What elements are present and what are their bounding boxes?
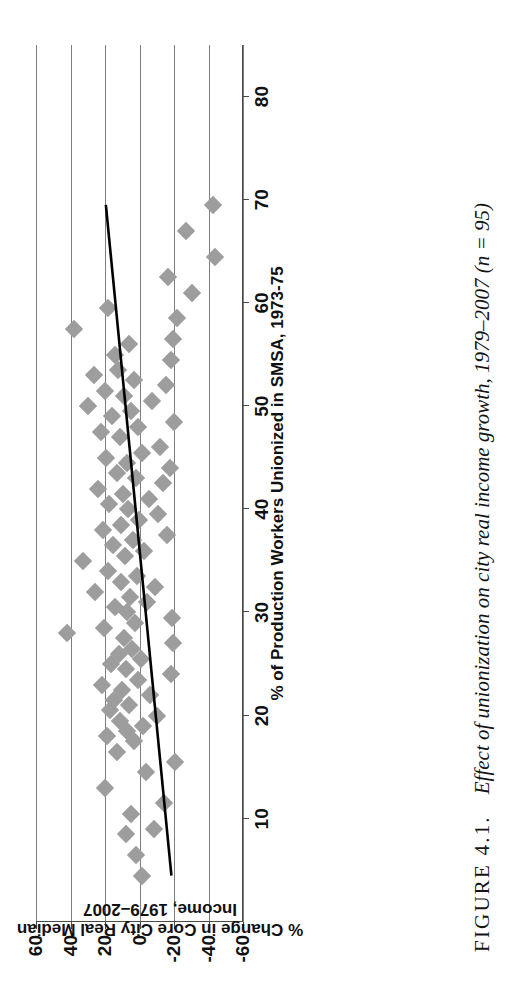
data-point bbox=[114, 485, 132, 503]
data-point bbox=[97, 449, 115, 467]
data-point bbox=[96, 779, 114, 797]
data-point bbox=[183, 283, 201, 301]
data-point bbox=[92, 676, 110, 694]
data-point bbox=[167, 309, 185, 327]
data-point bbox=[85, 366, 103, 384]
data-point bbox=[133, 443, 151, 461]
data-point bbox=[120, 335, 138, 353]
y-gridline bbox=[209, 45, 210, 922]
data-point bbox=[166, 753, 184, 771]
data-point bbox=[127, 846, 145, 864]
data-point bbox=[129, 670, 147, 688]
data-point bbox=[134, 717, 152, 735]
data-point bbox=[149, 505, 167, 523]
data-point bbox=[154, 794, 172, 812]
x-axis-title: % of Production Workers Unionized in SMS… bbox=[268, 45, 288, 922]
x-axis-tick bbox=[243, 302, 249, 303]
data-point bbox=[164, 330, 182, 348]
x-axis-tick bbox=[243, 818, 249, 819]
y-gridline bbox=[36, 45, 37, 922]
data-point bbox=[100, 495, 118, 513]
y-gridline bbox=[174, 45, 175, 922]
data-point bbox=[99, 299, 117, 317]
data-point bbox=[65, 320, 83, 338]
data-point bbox=[151, 438, 169, 456]
data-point bbox=[109, 361, 127, 379]
data-point bbox=[91, 423, 109, 441]
data-point bbox=[108, 743, 126, 761]
y-gridline bbox=[243, 45, 244, 922]
data-point bbox=[177, 222, 195, 240]
data-point bbox=[110, 428, 128, 446]
y-gridline bbox=[71, 45, 72, 922]
x-axis-tick bbox=[243, 96, 249, 97]
y-axis-tick-label: -40 bbox=[198, 935, 220, 962]
data-point bbox=[142, 392, 160, 410]
data-point bbox=[146, 577, 164, 595]
y-axis-tick-label: -60 bbox=[232, 935, 254, 962]
data-point bbox=[116, 825, 134, 843]
data-point bbox=[163, 608, 181, 626]
x-axis-tick bbox=[243, 199, 249, 200]
data-point bbox=[157, 376, 175, 394]
y-axis-tick-label: -20 bbox=[163, 935, 185, 962]
data-point bbox=[127, 469, 145, 487]
data-point bbox=[129, 418, 147, 436]
data-point bbox=[58, 624, 76, 642]
data-point bbox=[98, 727, 116, 745]
chart-figure: -60-40-2002040601020304050607080 % of Pr… bbox=[0, 0, 460, 998]
x-axis-line bbox=[242, 45, 243, 922]
x-axis-tick bbox=[243, 405, 249, 406]
data-point bbox=[125, 371, 143, 389]
data-point bbox=[121, 588, 139, 606]
plot-frame: -60-40-2002040601020304050607080 bbox=[36, 45, 243, 922]
data-point bbox=[95, 619, 113, 637]
data-point bbox=[96, 381, 114, 399]
data-point bbox=[162, 351, 180, 369]
data-point bbox=[141, 686, 159, 704]
data-point bbox=[128, 567, 146, 585]
y-axis-title: % Change in Core City Real Median Income… bbox=[5, 899, 315, 939]
data-point bbox=[165, 412, 183, 430]
x-axis-tick bbox=[243, 715, 249, 716]
chart-canvas: -60-40-2002040601020304050607080 % of Pr… bbox=[0, 0, 460, 998]
data-point bbox=[122, 804, 140, 822]
data-point bbox=[133, 866, 151, 884]
data-point bbox=[164, 634, 182, 652]
x-axis-tick bbox=[243, 508, 249, 509]
data-point bbox=[106, 345, 124, 363]
data-point bbox=[161, 665, 179, 683]
x-axis-tick bbox=[243, 611, 249, 612]
data-point bbox=[73, 552, 91, 570]
data-point bbox=[94, 521, 112, 539]
data-point bbox=[145, 820, 163, 838]
data-point bbox=[148, 706, 166, 724]
data-point bbox=[204, 196, 222, 214]
data-point bbox=[85, 583, 103, 601]
figure-caption-text: Effect of unionization on city real inco… bbox=[470, 203, 494, 794]
data-point bbox=[116, 547, 134, 565]
figure-label: FIGURE 4.1. bbox=[470, 815, 494, 952]
plot-area: -60-40-2002040601020304050607080 bbox=[36, 45, 243, 922]
data-point bbox=[79, 397, 97, 415]
